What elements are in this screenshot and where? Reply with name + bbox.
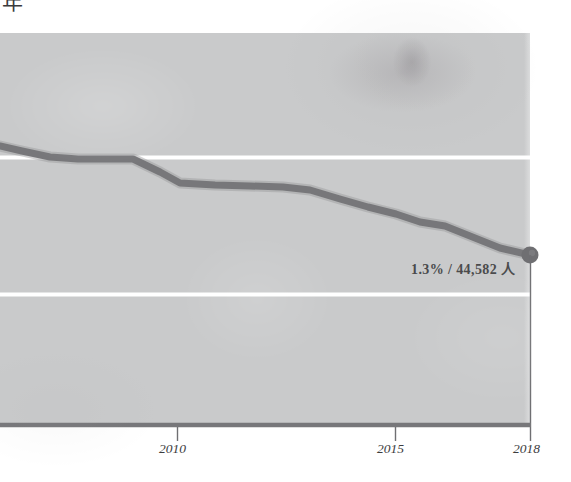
x-tick-label-2015: 2015 xyxy=(377,441,404,457)
endpoint-value-label: 1.3% / 44,582 人 xyxy=(411,258,515,278)
series-line xyxy=(0,146,530,255)
x-tick-label-2018: 2018 xyxy=(513,441,540,457)
x-axis-ticks xyxy=(178,427,396,441)
chart-root: 年 1.3% / 44,582 人 2010 2015 2018 xyxy=(0,0,571,482)
series-line-group xyxy=(0,146,530,255)
chart-svg-layer xyxy=(0,0,571,482)
x-tick-label-2010: 2010 xyxy=(159,441,186,457)
